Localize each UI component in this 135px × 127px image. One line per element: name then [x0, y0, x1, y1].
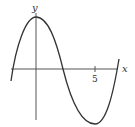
function-curve: [11, 17, 119, 124]
x-tick-label-5: 5: [92, 74, 98, 84]
y-axis-label: y: [31, 2, 38, 13]
x-axis-label: x: [122, 63, 128, 74]
function-graph: y x 5: [0, 0, 135, 127]
